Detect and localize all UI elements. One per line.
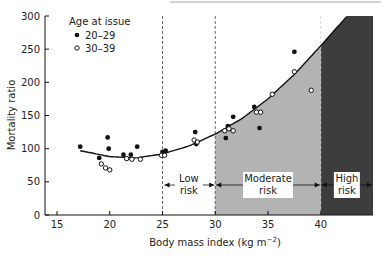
y-tick-label: 0 — [34, 210, 40, 221]
data-point-filled — [193, 130, 198, 135]
moderate-risk-label-text: risk — [259, 185, 277, 196]
y-tick-label: 200 — [21, 77, 40, 88]
data-point-filled — [135, 144, 140, 149]
moderate-risk-label-text: Moderate — [244, 173, 292, 184]
data-point-filled — [78, 144, 83, 149]
data-point-open — [103, 166, 107, 170]
data-point-open — [309, 88, 313, 92]
high-risk-label-text: High — [335, 173, 358, 184]
x-axis-label: Body mass index (kg m−2) — [149, 236, 281, 248]
legend-label-20-29: 20–29 — [85, 30, 115, 41]
y-tick-label: 100 — [21, 143, 40, 154]
data-point-filled — [163, 148, 168, 153]
risk-labels: LowriskModerateriskHighrisk — [165, 172, 373, 198]
data-point-open — [292, 70, 296, 74]
data-point-open — [195, 140, 199, 144]
data-point-filled — [97, 156, 102, 161]
legend-title: Age at issue — [69, 16, 130, 27]
y-tick-label: 250 — [21, 44, 40, 55]
arrowhead-left-icon — [165, 183, 170, 188]
data-point-filled — [223, 136, 228, 141]
data-point-open — [138, 157, 142, 161]
y-tick-label: 300 — [21, 11, 40, 22]
x-tick-label: 40 — [314, 219, 327, 230]
x-tick-label: 25 — [156, 219, 169, 230]
high-risk-label-text: risk — [338, 185, 356, 196]
data-point-open — [162, 153, 166, 157]
x-tick-label: 20 — [103, 219, 116, 230]
data-point-open — [99, 162, 103, 166]
data-point-open — [270, 92, 274, 96]
data-point-open — [130, 157, 134, 161]
data-point-open — [124, 156, 128, 160]
data-point-filled — [121, 152, 126, 157]
filled-circle-icon — [75, 33, 80, 38]
data-point-open — [227, 127, 231, 131]
data-point-open — [108, 168, 112, 172]
data-point-filled — [106, 146, 111, 151]
y-axis-label: Mortality ratio — [6, 80, 17, 151]
data-point-filled — [105, 135, 110, 140]
data-point-filled — [231, 114, 236, 119]
x-axis-label-superscript: −2 — [267, 236, 277, 244]
x-tick-label: 15 — [51, 219, 64, 230]
legend: Age at issue 20–29 30–39 — [69, 16, 130, 54]
x-axis-label-end: ) — [277, 237, 281, 248]
data-point-open — [223, 129, 227, 133]
data-point-filled — [128, 152, 133, 157]
open-circle-icon — [75, 46, 79, 50]
data-point-filled — [252, 104, 257, 109]
bmi-mortality-chart: 050100150200250300152025303540 LowriskMo… — [0, 0, 381, 260]
y-tick-label: 50 — [27, 176, 40, 187]
x-axis-label-main: Body mass index (kg m — [149, 237, 266, 248]
data-point-filled — [257, 126, 262, 131]
y-tick-label: 150 — [21, 110, 40, 121]
legend-label-30-39: 30–39 — [85, 43, 115, 54]
low-risk-label-text: Low — [179, 173, 199, 184]
x-tick-label: 35 — [262, 219, 275, 230]
x-tick-label: 30 — [209, 219, 222, 230]
arrowhead-right-icon — [209, 183, 214, 188]
data-point-filled — [292, 49, 297, 54]
data-point-open — [231, 129, 235, 133]
low-risk-label-text: risk — [180, 185, 198, 196]
data-point-open — [258, 110, 262, 114]
